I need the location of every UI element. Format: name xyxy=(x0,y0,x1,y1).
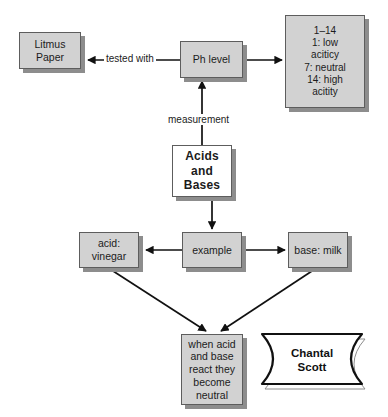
node-litmus-paper[interactable]: Litmus Paper xyxy=(19,32,81,69)
signature-text: Chantal Scott xyxy=(258,332,366,390)
node-acids-and-bases[interactable]: Acids and Bases xyxy=(172,145,232,197)
node-acid-vinegar[interactable]: acid: vinegar xyxy=(79,232,139,268)
edge-label-measurement: measurement xyxy=(166,114,231,125)
node-base-milk-label: base: milk xyxy=(294,244,341,257)
node-ph-level-label: Ph level xyxy=(193,53,230,66)
node-acids-and-bases-label: Acids and Bases xyxy=(184,149,220,193)
connector-base-to-neutral xyxy=(221,271,312,331)
edge-label-tested-with: tested with xyxy=(104,53,156,64)
node-base-milk[interactable]: base: milk xyxy=(288,232,348,268)
node-example[interactable]: example xyxy=(182,232,242,268)
diagram-canvas: Litmus Paper Ph level 1–14 1: low acitic… xyxy=(0,0,388,417)
node-ph-scale-label: 1–14 1: low aciticy 7: neutral 14: high … xyxy=(304,25,346,98)
node-litmus-paper-label: Litmus Paper xyxy=(35,38,66,64)
node-neutral-result-label: when acid and base react they become neu… xyxy=(188,338,235,402)
node-ph-level[interactable]: Ph level xyxy=(180,41,243,78)
node-ph-scale[interactable]: 1–14 1: low aciticy 7: neutral 14: high … xyxy=(285,15,365,108)
signature-banner: Chantal Scott xyxy=(258,332,366,390)
node-neutral-result[interactable]: when acid and base react they become neu… xyxy=(181,334,243,405)
node-example-label: example xyxy=(192,244,232,257)
connector-acid-to-neutral xyxy=(113,271,206,331)
node-acid-vinegar-label: acid: vinegar xyxy=(92,237,126,263)
